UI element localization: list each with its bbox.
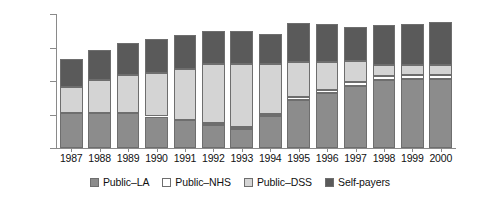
x-axis-line: [56, 148, 456, 149]
bar-segment-self-payers[interactable]: [230, 31, 253, 65]
legend-item-label: Public–DSS: [257, 176, 312, 188]
bar-segment-public-la[interactable]: [401, 79, 424, 148]
bar-1987[interactable]: [60, 14, 83, 148]
bar-segment-public-la[interactable]: [88, 113, 111, 148]
y-axis-tick-label-wrap: 400,000: [0, 14, 56, 15]
bar-segment-public-nhs[interactable]: [230, 127, 253, 129]
bar-segment-public-nhs[interactable]: [287, 97, 310, 100]
bar-segment-self-payers[interactable]: [117, 43, 140, 75]
bar-2000[interactable]: [429, 14, 452, 148]
bar-segment-public-la[interactable]: [344, 86, 367, 148]
bar-segment-self-payers[interactable]: [145, 39, 168, 74]
bar-1994[interactable]: [259, 14, 282, 148]
bar-1995[interactable]: [287, 14, 310, 148]
bar-segment-self-payers[interactable]: [174, 35, 197, 69]
bar-1996[interactable]: [316, 14, 339, 148]
bar-segment-public-nhs[interactable]: [429, 75, 452, 79]
bar-segment-public-dss[interactable]: [202, 64, 225, 123]
y-axis-tick-label-wrap: 0: [0, 148, 56, 149]
y-axis-tick-label-wrap: 100,000: [0, 115, 56, 116]
bar-1997[interactable]: [344, 14, 367, 148]
bar-segment-self-payers[interactable]: [88, 50, 111, 80]
bar-1993[interactable]: [230, 14, 253, 148]
legend-swatch-self-payers: [325, 178, 334, 187]
bar-segment-public-la[interactable]: [174, 120, 197, 148]
y-axis-tick-label-wrap: 200,000: [0, 81, 56, 82]
bar-segment-public-la[interactable]: [373, 80, 396, 148]
bar-segment-public-dss[interactable]: [88, 80, 111, 113]
bar-segment-self-payers[interactable]: [316, 24, 339, 62]
x-axis-label-1997: 1997: [341, 152, 369, 164]
chart-legend: Public–LAPublic–NHSPublic–DSSSelf-payers: [0, 176, 480, 188]
bar-1990[interactable]: [145, 14, 168, 148]
bar-segment-self-payers[interactable]: [60, 59, 83, 88]
bar-1999[interactable]: [401, 14, 424, 148]
stacked-bar-chart: 0100,000200,000300,000400,000 1987198819…: [0, 0, 480, 208]
x-axis-label-1992: 1992: [199, 152, 227, 164]
x-axis-label-1988: 1988: [85, 152, 113, 164]
bar-segment-public-nhs[interactable]: [344, 82, 367, 86]
bar-segment-public-la[interactable]: [202, 125, 225, 148]
bar-segment-self-payers[interactable]: [259, 34, 282, 64]
bar-segment-public-la[interactable]: [259, 116, 282, 148]
bar-1998[interactable]: [373, 14, 396, 148]
legend-item-1[interactable]: Public–NHS: [162, 176, 231, 188]
bar-segment-self-payers[interactable]: [287, 23, 310, 62]
bar-segment-public-dss[interactable]: [287, 62, 310, 97]
legend-item-0[interactable]: Public–LA: [90, 176, 149, 188]
x-axis-label-1999: 1999: [398, 152, 426, 164]
bar-segment-self-payers[interactable]: [429, 22, 452, 65]
x-axis-label-1996: 1996: [313, 152, 341, 164]
y-axis-tick-label-wrap: 300,000: [0, 48, 56, 49]
bar-segment-self-payers[interactable]: [202, 31, 225, 65]
bar-segment-public-la[interactable]: [145, 117, 168, 148]
bar-segment-public-nhs[interactable]: [316, 90, 339, 94]
bar-segment-public-nhs[interactable]: [202, 123, 225, 125]
bar-segment-public-nhs[interactable]: [401, 75, 424, 79]
bar-segment-public-la[interactable]: [230, 129, 253, 148]
x-axis-label-1990: 1990: [142, 152, 170, 164]
bar-segment-public-dss[interactable]: [117, 75, 140, 113]
bar-1991[interactable]: [174, 14, 197, 148]
bar-segment-self-payers[interactable]: [401, 24, 424, 65]
bar-segment-public-dss[interactable]: [373, 65, 396, 76]
bar-segment-public-nhs[interactable]: [373, 76, 396, 80]
bar-segment-public-dss[interactable]: [230, 64, 253, 127]
x-axis-label-1987: 1987: [57, 152, 85, 164]
x-axis-label-1989: 1989: [114, 152, 142, 164]
legend-item-label: Self-payers: [338, 176, 390, 188]
bar-segment-public-dss[interactable]: [344, 61, 367, 82]
legend-swatch-public-nhs: [162, 178, 171, 187]
bar-segment-public-dss[interactable]: [145, 73, 168, 116]
bar-segment-public-dss[interactable]: [429, 65, 452, 75]
x-axis-label-1995: 1995: [284, 152, 312, 164]
bar-segment-public-la[interactable]: [117, 113, 140, 148]
bar-1989[interactable]: [117, 14, 140, 148]
x-axis-label-2000: 2000: [427, 152, 455, 164]
x-axis-label-1991: 1991: [171, 152, 199, 164]
bar-segment-public-la[interactable]: [429, 79, 452, 148]
legend-swatch-public-dss: [244, 178, 253, 187]
legend-item-3[interactable]: Self-payers: [325, 176, 390, 188]
bar-segment-self-payers[interactable]: [373, 25, 396, 65]
x-axis-label-1993: 1993: [228, 152, 256, 164]
x-axis-label-1998: 1998: [370, 152, 398, 164]
bar-segment-public-dss[interactable]: [316, 62, 339, 90]
bar-segment-public-dss[interactable]: [259, 64, 282, 114]
legend-item-label: Public–LA: [103, 176, 149, 188]
bar-segment-public-dss[interactable]: [60, 87, 83, 113]
legend-swatch-public-la: [90, 178, 99, 187]
bar-segment-public-la[interactable]: [60, 113, 83, 148]
bar-1992[interactable]: [202, 14, 225, 148]
bar-segment-public-dss[interactable]: [174, 69, 197, 120]
bar-1988[interactable]: [88, 14, 111, 148]
x-axis-label-1994: 1994: [256, 152, 284, 164]
legend-item-label: Public–NHS: [175, 176, 231, 188]
bar-segment-public-la[interactable]: [316, 93, 339, 148]
legend-item-2[interactable]: Public–DSS: [244, 176, 312, 188]
bar-segment-public-la[interactable]: [287, 100, 310, 148]
bar-segment-self-payers[interactable]: [344, 27, 367, 61]
plot-area: [57, 14, 455, 148]
bar-segment-public-nhs[interactable]: [259, 114, 282, 116]
bar-segment-public-dss[interactable]: [401, 65, 424, 75]
